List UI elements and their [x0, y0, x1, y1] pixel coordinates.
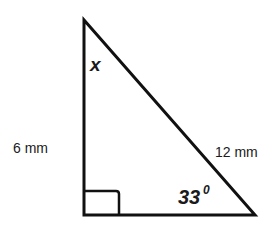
angle-33-label: 33 — [178, 186, 200, 208]
angle-x-label: x — [89, 54, 102, 75]
side-6mm-label: 6 mm — [13, 140, 48, 156]
right-angle-marker — [84, 191, 119, 215]
triangle — [84, 20, 255, 215]
triangle-diagram: x 6 mm 12 mm 33 0 — [0, 0, 277, 226]
hypotenuse-12mm-label: 12 mm — [215, 144, 258, 160]
degree-superscript: 0 — [203, 183, 210, 197]
